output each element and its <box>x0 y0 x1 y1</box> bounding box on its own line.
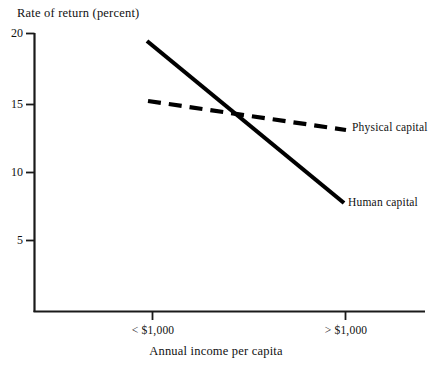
y-tick-label-5: 5 <box>0 233 23 248</box>
series-label-human-capital: Human capital <box>348 196 418 208</box>
y-tick-label-10: 10 <box>0 165 23 180</box>
chart-canvas <box>0 0 432 368</box>
y-tick-label-20: 20 <box>0 26 23 41</box>
x-tick-label-low-income: < $1,000 <box>108 324 198 336</box>
x-axis-title: Annual income per capita <box>0 344 432 359</box>
series-label-physical-capital: Physical capital <box>352 121 428 133</box>
y-tick-label-15: 15 <box>0 97 23 112</box>
x-tick-label-high-income: > $1,000 <box>301 324 391 336</box>
y-axis-title: Rate of return (percent) <box>17 6 139 21</box>
series-line-human-capital <box>147 41 344 203</box>
chart-figure: Rate of return (percent) 20 15 10 5 < $1… <box>0 0 432 368</box>
